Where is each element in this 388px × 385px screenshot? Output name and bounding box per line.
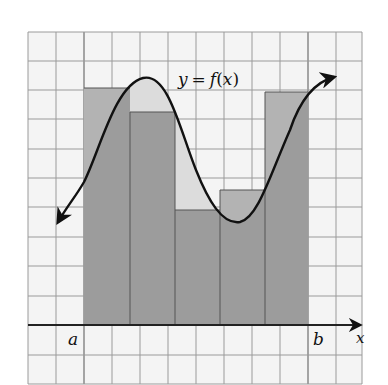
label-x-axis: x — [356, 329, 365, 347]
riemann-diagram: y=f(x) a b x — [0, 0, 388, 385]
label-b: b — [313, 329, 324, 349]
label-a: a — [68, 329, 78, 349]
